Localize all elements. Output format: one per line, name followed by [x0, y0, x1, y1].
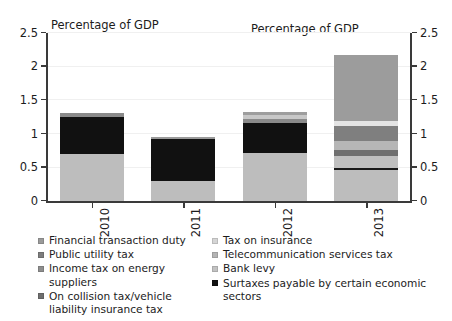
bar-segment [151, 137, 215, 138]
x-tick-label-2012: 2012 [281, 208, 295, 237]
legend-swatch-icon [38, 293, 44, 299]
legend-label: Income tax on energy suppliers [49, 262, 206, 288]
y-tick-label-left: 1.5 [20, 95, 38, 107]
y-tick-left [41, 166, 46, 167]
y-axis-right [410, 33, 412, 203]
legend-swatch-icon [212, 238, 218, 244]
x-axis [46, 201, 412, 203]
bar-segment [334, 156, 398, 167]
chart-figure: Percentage of GDP Percentage of GDP 00.5… [0, 0, 452, 321]
legend-label: Surtaxes payable by certain economic sec… [223, 277, 438, 303]
bar-segment [334, 150, 398, 157]
gridline [47, 32, 411, 33]
bar-segment [334, 170, 398, 201]
y-tick-left [41, 65, 46, 66]
x-tick-label-2011: 2011 [189, 208, 203, 237]
legend-item[interactable]: Telecommunication services tax [212, 248, 438, 261]
bar-segment [60, 113, 124, 117]
legend-swatch-icon [212, 280, 218, 286]
legend-item[interactable]: Financial transaction duty [38, 234, 206, 247]
legend-column-left: Financial transaction dutyPublic utility… [38, 234, 206, 317]
legend-column-right: Tax on insuranceTelecommunication servic… [212, 234, 438, 317]
legend-label: Telecommunication services tax [223, 248, 393, 261]
x-tick [366, 203, 367, 208]
y-tick-right [412, 99, 417, 100]
left-axis-title: Percentage of GDP [51, 18, 159, 32]
legend-swatch-icon [212, 252, 218, 258]
y-tick-label-left: 0.5 [20, 162, 38, 174]
y-tick-right [412, 65, 417, 66]
bar-segment [151, 139, 215, 181]
legend-item[interactable]: Surtaxes payable by certain economic sec… [212, 277, 438, 303]
y-tick-label-left: 0 [31, 196, 38, 208]
legend-label: Bank levy [223, 262, 275, 275]
y-tick-left [41, 133, 46, 134]
plot-area: 00.511.522.5 00.511.522.5 [46, 33, 412, 203]
y-tick-label-right: 1 [420, 129, 427, 141]
bar-segment [243, 123, 307, 153]
y-tick-right [412, 166, 417, 167]
x-tick [275, 203, 276, 208]
y-tick-label-right: 0.5 [420, 162, 438, 174]
bar-segment [243, 112, 307, 115]
legend-label: Financial transaction duty [49, 234, 186, 247]
legend-swatch-icon [38, 252, 44, 258]
bar-segment [334, 121, 398, 126]
x-tick-label-2013: 2013 [372, 208, 386, 237]
legend-label: Tax on insurance [223, 234, 312, 247]
y-tick-label-left: 1 [31, 129, 38, 141]
x-tick-label-2010: 2010 [98, 208, 112, 237]
legend-swatch-icon [38, 266, 44, 272]
legend-item[interactable]: Income tax on energy suppliers [38, 262, 206, 288]
bar-segment [151, 181, 215, 201]
y-tick-right [412, 133, 417, 134]
x-tick [183, 203, 184, 208]
y-tick-left [41, 200, 46, 201]
bar-segment [334, 55, 398, 120]
y-tick-label-left: 2.5 [20, 28, 38, 40]
y-tick-left [41, 32, 46, 33]
chart-legend: Financial transaction dutyPublic utility… [38, 234, 438, 317]
legend-swatch-icon [212, 266, 218, 272]
legend-item[interactable]: Tax on insurance [212, 234, 438, 247]
bar-segment [60, 117, 124, 154]
bar-segment [60, 154, 124, 201]
x-tick [92, 203, 93, 208]
y-tick-right [412, 200, 417, 201]
y-tick-label-right: 0 [420, 196, 427, 208]
legend-label: On collision tax/vehicle liability insur… [49, 290, 206, 316]
legend-item[interactable]: Public utility tax [38, 248, 206, 261]
y-tick-label-right: 2.5 [420, 28, 438, 40]
legend-item[interactable]: Bank levy [212, 262, 438, 275]
bar-2013 [334, 55, 398, 201]
bar-2011 [151, 137, 215, 201]
y-tick-left [41, 99, 46, 100]
bar-segment [334, 168, 398, 171]
bar-segment [243, 115, 307, 118]
bar-2012 [243, 112, 307, 202]
y-tick-label-left: 2 [31, 61, 38, 73]
y-tick-label-right: 2 [420, 61, 427, 73]
y-tick-right [412, 32, 417, 33]
legend-item[interactable]: On collision tax/vehicle liability insur… [38, 290, 206, 316]
bar-segment [243, 119, 307, 124]
y-axis-left [46, 33, 48, 203]
legend-label: Public utility tax [49, 248, 134, 261]
bar-segment [243, 153, 307, 201]
bar-segment [334, 126, 398, 141]
bar-segment [334, 141, 398, 150]
bar-2010 [60, 113, 124, 201]
legend-swatch-icon [38, 238, 44, 244]
y-tick-label-right: 1.5 [420, 95, 438, 107]
